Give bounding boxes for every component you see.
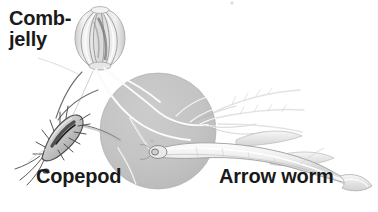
arrow-worm-eye bbox=[152, 149, 159, 155]
label-comb-jelly-line2: jelly bbox=[9, 29, 71, 50]
label-copepod: Copepod bbox=[36, 166, 121, 187]
label-comb-jelly-line1: Comb- bbox=[9, 7, 71, 29]
background-speck bbox=[230, 1, 233, 4]
plankton-scale-figure: Comb-jelly Copepod Arrow worm bbox=[0, 0, 378, 212]
comb-jelly-organism bbox=[75, 7, 125, 70]
arrow-worm-tail-fin bbox=[340, 174, 372, 190]
label-arrow-worm: Arrow worm bbox=[219, 166, 334, 187]
label-comb-jelly: Comb-jelly bbox=[9, 8, 71, 50]
